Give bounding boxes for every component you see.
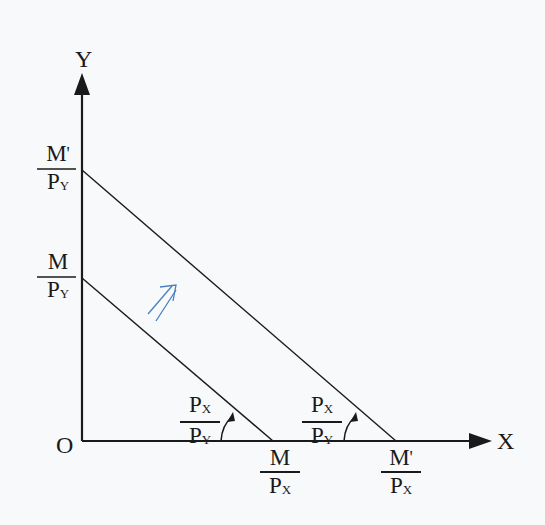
origin-label: O bbox=[56, 432, 73, 459]
denominator: P bbox=[269, 473, 282, 498]
numerator: M bbox=[389, 445, 409, 470]
subscript: X bbox=[282, 482, 291, 497]
x-intercept-original-label: M PX bbox=[260, 446, 300, 501]
denominator: P bbox=[311, 423, 324, 448]
denominator: P bbox=[189, 423, 202, 448]
numerator: M bbox=[46, 141, 66, 166]
y-intercept-new-label: M' PY bbox=[38, 142, 78, 197]
y-axis-arrowhead-icon bbox=[74, 73, 90, 95]
shift-arrow-icon bbox=[148, 285, 176, 321]
budget-line-new bbox=[82, 170, 396, 441]
numerator: M bbox=[270, 445, 290, 470]
y-intercept-original-label: M PY bbox=[38, 250, 78, 305]
prime-mark: ' bbox=[67, 144, 70, 164]
subscript: X bbox=[403, 482, 412, 497]
angle-arrowhead-icon bbox=[227, 412, 235, 422]
numerator: P bbox=[311, 392, 324, 417]
x-intercept-new-label: M' PX bbox=[381, 446, 421, 501]
subscript: Y bbox=[202, 432, 211, 447]
numerator: M bbox=[48, 249, 68, 274]
denominator: P bbox=[390, 473, 403, 498]
subscript: Y bbox=[324, 432, 333, 447]
slope-angle-arrow-original bbox=[221, 412, 235, 441]
x-axis-label: X bbox=[497, 428, 514, 455]
denominator: P bbox=[47, 169, 60, 194]
slope-label-original: PX PY bbox=[180, 393, 220, 451]
numerator: P bbox=[189, 392, 202, 417]
x-axis-arrowhead-icon bbox=[469, 433, 492, 449]
subscript: Y bbox=[60, 178, 69, 193]
prime-mark: ' bbox=[410, 448, 413, 468]
budget-line-original bbox=[82, 278, 273, 441]
angle-arrowhead-icon bbox=[350, 412, 358, 422]
y-axis-label: Y bbox=[75, 46, 92, 73]
subscript: Y bbox=[60, 286, 69, 301]
slope-angle-arrow-new bbox=[344, 412, 358, 441]
subscript: X bbox=[324, 401, 333, 416]
slope-label-new: PX PY bbox=[302, 393, 342, 451]
denominator: P bbox=[47, 277, 60, 302]
subscript: X bbox=[202, 401, 211, 416]
